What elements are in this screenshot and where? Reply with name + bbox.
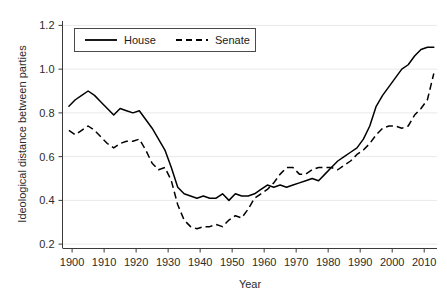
- y-tick-label: 0.6: [39, 151, 54, 163]
- x-axis-tick-labels: 1900191019201930194019501960197019801990…: [60, 256, 437, 268]
- y-tick-label: 0.4: [39, 194, 54, 206]
- legend-label-senate: Senate: [215, 34, 250, 46]
- chart-figure: 0.20.40.60.81.01.2 190019101920193019401…: [0, 0, 447, 296]
- y-tick-label: 0.2: [39, 238, 54, 250]
- y-tick-label: 1.2: [39, 19, 54, 31]
- line-chart: 0.20.40.60.81.01.2 190019101920193019401…: [0, 0, 447, 296]
- chart-legend: House Senate: [75, 29, 256, 52]
- x-tick-label: 1970: [284, 256, 308, 268]
- x-tick-label: 1990: [348, 256, 372, 268]
- y-tick-label: 1.0: [39, 63, 54, 75]
- x-tick-label: 2010: [412, 256, 436, 268]
- x-tick-label: 2000: [380, 256, 404, 268]
- x-tick-label: 1950: [220, 256, 244, 268]
- gridlines: [63, 25, 438, 244]
- y-axis-tick-labels: 0.20.40.60.81.01.2: [39, 19, 54, 250]
- x-tick-label: 1910: [92, 256, 116, 268]
- legend-label-house: House: [124, 34, 156, 46]
- x-tick-label: 1940: [188, 256, 212, 268]
- x-axis-ticks: [72, 249, 424, 253]
- y-axis-ticks: [59, 25, 63, 244]
- x-tick-label: 1960: [252, 256, 276, 268]
- series-line-senate: [69, 74, 434, 229]
- series-line-house: [69, 47, 434, 200]
- y-tick-label: 0.8: [39, 107, 54, 119]
- x-tick-label: 1900: [60, 256, 84, 268]
- y-axis-title: Ideological distance between parties: [16, 45, 28, 223]
- x-tick-label: 1920: [124, 256, 148, 268]
- x-axis-title: Year: [239, 278, 262, 290]
- x-tick-label: 1930: [156, 256, 180, 268]
- x-tick-label: 1980: [316, 256, 340, 268]
